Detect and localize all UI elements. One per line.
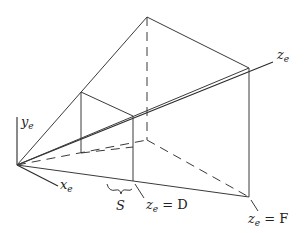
ray-top-left — [17, 17, 147, 165]
far-top-edge — [147, 17, 249, 68]
z-axis — [17, 62, 273, 165]
z-axis-label: ze — [277, 48, 289, 64]
frustum-diagram: ye xe ze S ze = D ze = F — [0, 0, 307, 233]
far-plane-equation: = F — [264, 211, 288, 226]
far-plane-label: ze = F — [248, 212, 288, 228]
y-axis-label: ye — [21, 115, 34, 131]
near-top-edge — [81, 92, 133, 116]
x-axis-label: xe — [60, 178, 73, 194]
near-plane-equation: = D — [162, 197, 187, 212]
spacing-brace-icon — [107, 184, 132, 194]
far-plane-leader — [251, 200, 258, 211]
far-bottom-edge-hidden — [147, 140, 249, 197]
spacing-label: S — [116, 199, 125, 212]
near-plane-leader — [135, 184, 144, 198]
near-plane-label: ze = D — [146, 198, 188, 214]
